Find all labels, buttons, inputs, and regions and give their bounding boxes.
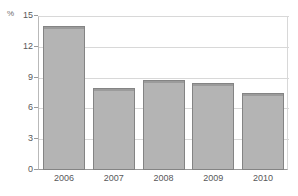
y-axis-tick-label: 9: [3, 73, 33, 82]
y-axis-tick-labels: 03691215: [0, 0, 33, 196]
bar[interactable]: [143, 80, 185, 170]
y-axis-tick-mark: [34, 138, 38, 139]
bar-top-edge: [44, 27, 84, 29]
y-axis-tick-label: 3: [3, 134, 33, 143]
bar[interactable]: [192, 83, 234, 170]
y-axis-tick-mark: [34, 46, 38, 47]
y-axis-tick-label: 12: [3, 42, 33, 51]
bar[interactable]: [43, 26, 85, 170]
y-axis-tick-label: 6: [3, 103, 33, 112]
y-axis-tick-mark: [34, 107, 38, 108]
bar-top-edge: [144, 81, 184, 83]
bars-group: [39, 16, 288, 170]
y-axis-tick-mark: [34, 15, 38, 16]
bar-chart: % 03691215 20062007200820092010: [0, 0, 298, 196]
x-axis-tick-labels: 20062007200820092010: [39, 172, 288, 188]
x-axis-tick-label: 2008: [139, 172, 189, 184]
y-axis-tick-mark: [34, 169, 38, 170]
x-axis-tick-label: 2006: [39, 172, 89, 184]
y-axis-tick-mark: [34, 77, 38, 78]
x-axis-tick-label: 2007: [89, 172, 139, 184]
y-axis-tick-label: 0: [3, 165, 33, 174]
bar-top-edge: [94, 89, 134, 91]
y-axis-tick-label: 15: [3, 11, 33, 20]
x-axis-tick-label: 2009: [188, 172, 238, 184]
bar-top-edge: [193, 84, 233, 86]
x-axis-tick-label: 2010: [238, 172, 288, 184]
bar[interactable]: [242, 93, 284, 170]
bar[interactable]: [93, 88, 135, 170]
bar-top-edge: [243, 94, 283, 96]
